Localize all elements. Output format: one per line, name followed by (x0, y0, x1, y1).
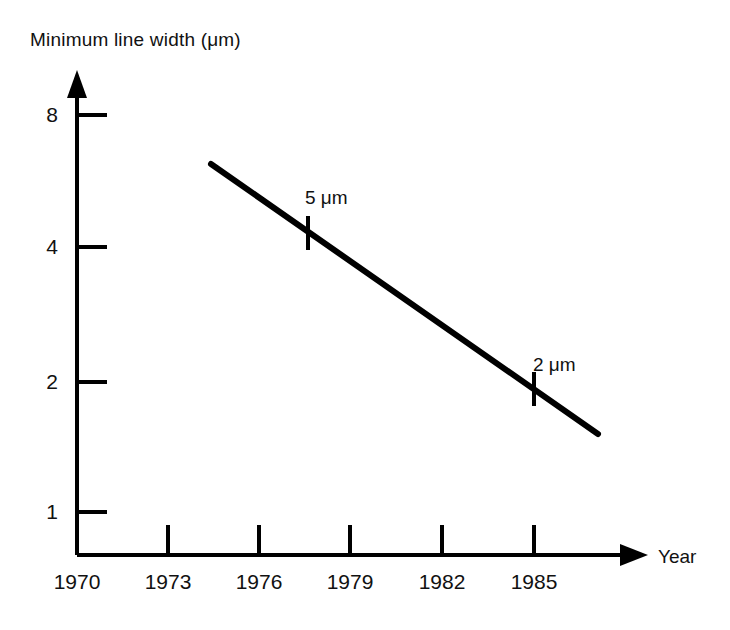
x-tick-label-1973: 1973 (128, 571, 208, 592)
y-tick-label-1: 1 (28, 501, 58, 522)
y-tick-label-2: 2 (28, 371, 58, 392)
x-axis-arrow-icon (620, 544, 648, 566)
y-tick-label-4: 4 (28, 236, 58, 257)
x-axis-title: Year (658, 547, 696, 566)
y-tick-label-8: 8 (28, 104, 58, 125)
chart-figure: Minimum line width (μm) 8 4 2 1 1970 197… (0, 0, 730, 630)
data-series-trend-line (211, 164, 598, 434)
x-tick-label-1982: 1982 (402, 571, 482, 592)
plot-canvas (0, 0, 730, 630)
x-tick-label-1979: 1979 (310, 571, 390, 592)
annotation-label-5um: 5 μm (305, 188, 348, 207)
y-axis-arrow-icon (67, 70, 87, 98)
x-tick-label-1976: 1976 (219, 571, 299, 592)
x-tick-label-1970: 1970 (37, 571, 117, 592)
annotation-label-2um: 2 μm (533, 355, 576, 374)
x-tick-label-1985: 1985 (494, 571, 574, 592)
